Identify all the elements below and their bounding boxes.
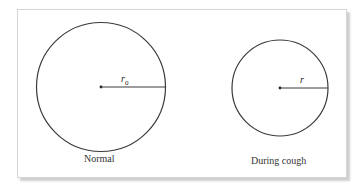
normal-circle bbox=[37, 23, 166, 152]
circles-diagram bbox=[0, 0, 364, 192]
radius-label-normal: r0 bbox=[121, 73, 128, 87]
cough-label: During cough bbox=[251, 155, 306, 166]
normal-label: Normal bbox=[84, 153, 115, 164]
radius-label-cough: r bbox=[300, 74, 304, 85]
cough-circle bbox=[232, 40, 328, 136]
